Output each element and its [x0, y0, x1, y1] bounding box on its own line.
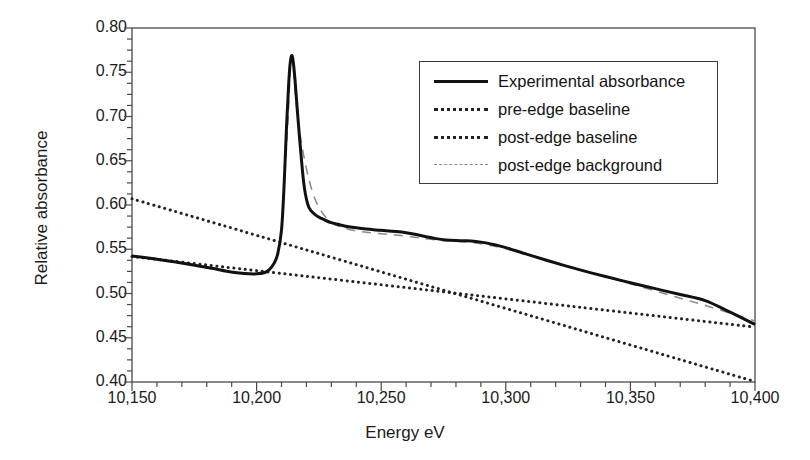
legend-label: Experimental absorbance [492, 72, 685, 91]
legend-line-swatch-dotted [430, 127, 492, 147]
x-tick-label: 10,350 [606, 389, 655, 407]
x-tick-label: 10,300 [481, 389, 530, 407]
legend-item: pre-edge baseline [430, 96, 630, 122]
x-tick-label: 10,250 [357, 389, 406, 407]
legend-label: post-edge background [492, 156, 662, 175]
legend-item: Experimental absorbance [430, 68, 685, 94]
x-axis-title: Energy eV [0, 423, 810, 443]
legend-label: pre-edge baseline [492, 100, 630, 119]
x-tick-label: 10,400 [731, 389, 780, 407]
x-tick-label: 10,200 [232, 389, 281, 407]
legend-item: post-edge background [430, 152, 662, 178]
series-pre-edge-baseline [132, 257, 755, 328]
legend-line-swatch-solid [430, 71, 492, 91]
legend-item: post-edge baseline [430, 124, 637, 150]
legend-label: post-edge baseline [492, 128, 637, 147]
legend-line-swatch-dotted [430, 99, 492, 119]
chart-figure: Relative absorbance 0.800.750.700.650.60… [0, 0, 810, 460]
legend: Experimental absorbancepre-edge baseline… [419, 61, 718, 184]
x-tick-label: 10,150 [108, 389, 157, 407]
legend-line-swatch-dashed [430, 155, 492, 175]
